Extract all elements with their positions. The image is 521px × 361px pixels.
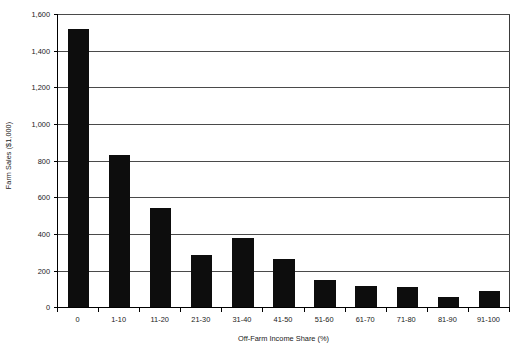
y-axis-tick-label: 200 [38,266,50,275]
bar [314,280,335,307]
x-axis-tick-mark [221,308,222,312]
x-axis-tick-label: 1-10 [111,315,126,324]
x-axis-tick-label: 81-90 [438,315,457,324]
y-axis-tick-mark [54,271,58,272]
y-axis-tick-label: 1,200 [32,83,51,92]
x-axis-tick-label: 61-70 [356,315,375,324]
y-axis-tick-mark [54,87,58,88]
y-axis-tick-label: 400 [38,229,50,238]
x-axis-tick-mark [180,308,181,312]
bar [479,291,500,307]
x-axis-tick-label: 51-60 [315,315,334,324]
x-axis-tick-mark [57,308,58,312]
y-axis-tick-label: 1,400 [32,46,51,55]
y-axis-tick-label: 0 [46,303,50,312]
plot-area [57,14,510,308]
y-axis-tick-mark [54,234,58,235]
x-axis-tick-label: 41-50 [274,315,293,324]
x-axis-tick-mark [139,308,140,312]
bar [232,238,253,308]
y-axis-tick-label: 1,000 [32,119,51,128]
y-axis-tick-mark [54,14,58,15]
gridline [58,87,510,88]
gridline [58,124,510,125]
x-axis-tick-mark [509,308,510,312]
x-axis-tick-mark [386,308,387,312]
x-axis-tick-label: 31-40 [232,315,251,324]
y-axis-tick-label: 600 [38,193,50,202]
bar [68,29,89,308]
x-axis-tick-marks [57,308,510,314]
x-axis-tick-mark [468,308,469,312]
x-axis-tick-mark [304,308,305,312]
x-axis-tick-mark [345,308,346,312]
x-axis-tick-label: 21-30 [191,315,210,324]
y-axis-tick-labels: 02004006008001,0001,2001,4001,600 [18,0,54,320]
bar [150,208,171,307]
y-axis-title: Farm Sales ($1,000) [0,0,18,310]
x-axis-title: Off-Farm Income Share (%) [57,334,510,343]
y-axis-tick-label: 1,600 [32,10,51,19]
bar [273,259,294,308]
x-axis-tick-label: 91-100 [477,315,500,324]
bar-chart: Farm Sales ($1,000) 02004006008001,0001,… [0,0,521,361]
bar [109,155,130,307]
y-axis-tick-mark [54,161,58,162]
bar [355,286,376,307]
x-axis-tick-label: 0 [75,315,79,324]
y-axis-title-label: Farm Sales ($1,000) [5,121,14,188]
x-axis-tick-mark [262,308,263,312]
x-axis-tick-labels: 01-1011-2021-3031-4041-5051-6061-7071-80… [57,315,510,329]
x-axis-tick-label: 71-80 [397,315,416,324]
gridline [58,51,510,52]
y-axis-tick-mark [54,197,58,198]
y-axis-tick-mark [54,51,58,52]
x-axis-tick-mark [98,308,99,312]
x-axis-tick-mark [427,308,428,312]
gridline [58,14,510,15]
x-axis-tick-label: 11-20 [151,315,169,324]
y-axis-tick-mark [54,124,58,125]
bar [191,255,212,307]
bar [438,297,459,307]
bar [397,287,418,307]
y-axis-tick-label: 800 [38,156,50,165]
